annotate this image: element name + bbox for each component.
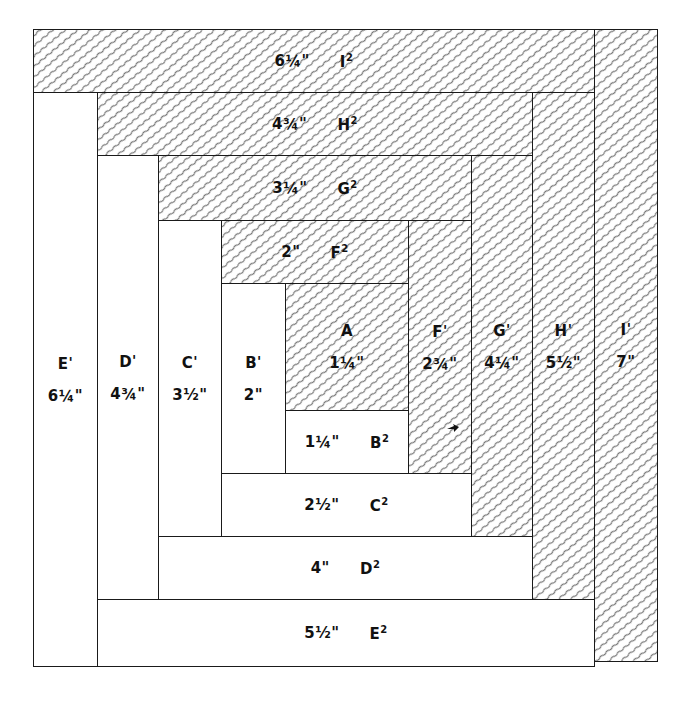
piece-label: 6¼"I2 (275, 52, 354, 71)
piece-b2: 1¼"B2 (285, 410, 409, 474)
piece-a: A1¼" (285, 283, 409, 411)
piece-size: 5½" (546, 354, 581, 372)
piece-size: 1¼" (305, 433, 340, 452)
piece-name: B' (245, 353, 262, 372)
piece-label: 4"D2 (311, 559, 381, 578)
piece-size: 4¾" (272, 115, 307, 134)
piece-size: 6¼" (48, 387, 83, 405)
piece-size: 4" (311, 559, 330, 578)
piece-name: C' (182, 353, 198, 372)
piece-g2: 3¼"G2 (158, 155, 472, 221)
piece-name: A (341, 322, 353, 340)
log-cabin-diagram: A1¼"1¼"B2B'2"2"F2F'2¾"2½"C2C'3½"3¼"G2G'4… (0, 0, 691, 701)
piece-f2: 2"F2 (221, 220, 409, 284)
piece-name: I' (621, 320, 632, 339)
piece-e2: 5½"E2 (97, 599, 595, 667)
piece-i1: I'7" (594, 29, 658, 662)
piece-label: A1¼" (329, 322, 364, 372)
piece-name: F' (432, 322, 448, 341)
piece-name: G2 (338, 179, 358, 198)
piece-i2: 6¼"I2 (33, 29, 595, 93)
piece-d1: D'4¾" (97, 155, 159, 600)
piece-size: 2" (281, 243, 300, 262)
piece-label: F'2¾" (422, 322, 457, 373)
piece-size: 5½" (304, 624, 339, 643)
piece-name: H2 (337, 115, 358, 134)
piece-name: E2 (370, 624, 388, 643)
piece-size: 3¼" (272, 179, 307, 198)
piece-size: 3½" (172, 386, 207, 404)
piece-name: E' (58, 354, 74, 373)
piece-name: F2 (331, 243, 349, 262)
piece-label: E'6¼" (48, 354, 83, 405)
piece-size: 2" (244, 386, 263, 404)
arrow-mark-icon (447, 424, 459, 432)
piece-label: D'4¾" (110, 352, 145, 403)
piece-name: B2 (370, 433, 389, 452)
piece-name: H' (555, 321, 573, 340)
piece-label: I'7" (616, 320, 635, 371)
piece-label: 5½"E2 (304, 624, 388, 643)
piece-d2: 4"D2 (158, 536, 533, 600)
piece-name: D2 (360, 559, 380, 578)
piece-g1: G'4¼" (471, 155, 533, 537)
piece-size: 2¾" (422, 355, 457, 373)
piece-c1: C'3½" (158, 220, 222, 537)
piece-name: I2 (340, 52, 354, 71)
piece-size: 7" (616, 353, 635, 371)
piece-name: G' (493, 321, 511, 340)
piece-label: H'5½" (546, 321, 581, 372)
piece-label: 1¼"B2 (305, 433, 390, 452)
piece-label: B'2" (244, 353, 263, 404)
piece-f1: F'2¾" (408, 220, 472, 474)
piece-size: 2½" (304, 496, 339, 515)
piece-label: 4¾"H2 (272, 115, 358, 134)
piece-size: 4¾" (110, 385, 145, 403)
piece-name: C2 (370, 496, 389, 515)
piece-size: 1¼" (329, 354, 364, 372)
piece-b1: B'2" (221, 283, 286, 474)
piece-size: 4¼" (484, 354, 519, 372)
piece-h1: H'5½" (532, 92, 595, 600)
piece-e1: E'6¼" (33, 92, 98, 667)
piece-label: C'3½" (172, 353, 207, 404)
piece-label: 2"F2 (281, 243, 348, 262)
piece-name: D' (119, 352, 137, 371)
piece-label: 3¼"G2 (272, 179, 358, 198)
piece-label: G'4¼" (484, 321, 519, 372)
piece-h2: 4¾"H2 (97, 92, 533, 156)
piece-label: 2½"C2 (304, 496, 388, 515)
piece-size: 6¼" (275, 52, 310, 71)
piece-c2: 2½"C2 (221, 473, 472, 537)
